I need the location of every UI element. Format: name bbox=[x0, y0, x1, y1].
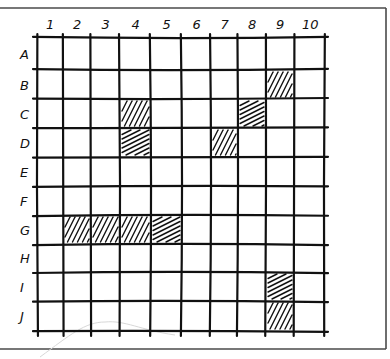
column-label: 6 bbox=[193, 17, 201, 32]
row-label: E bbox=[20, 165, 29, 180]
column-labels: 12345678910 bbox=[46, 17, 319, 32]
grid-row-line bbox=[33, 331, 328, 332]
hatched-cell-J9 bbox=[268, 303, 292, 329]
grid-column-line bbox=[119, 34, 120, 336]
faint-pencil-arc bbox=[40, 322, 175, 357]
grid-row-line bbox=[33, 301, 328, 302]
grid-row-line bbox=[33, 98, 328, 99]
row-label: J bbox=[17, 309, 24, 324]
hatched-cell-G5 bbox=[153, 217, 180, 242]
column-label: 4 bbox=[132, 17, 140, 32]
hatched-cell-G2 bbox=[65, 217, 89, 242]
grid-row-line bbox=[33, 272, 328, 273]
column-label: 3 bbox=[102, 17, 110, 32]
row-label: D bbox=[20, 136, 30, 151]
row-label: A bbox=[19, 47, 29, 62]
column-label: 10 bbox=[302, 17, 319, 32]
hatched-cell-I9 bbox=[268, 274, 292, 299]
hatched-cell-B9 bbox=[268, 72, 292, 97]
grid-row-line bbox=[33, 186, 328, 187]
grid-column-line bbox=[90, 34, 91, 336]
grid-column-line bbox=[324, 34, 325, 336]
column-label: 5 bbox=[163, 17, 171, 32]
grid-row-line bbox=[33, 244, 328, 245]
row-label: F bbox=[20, 194, 28, 209]
grid-column-line bbox=[294, 34, 295, 336]
battleship-grid-sketch: 12345678910 ABCDEFGHIJ bbox=[0, 0, 390, 359]
hatched-cell-G4 bbox=[122, 217, 149, 242]
grid-row-line bbox=[33, 69, 328, 70]
row-label: C bbox=[20, 107, 30, 122]
grid-row-line bbox=[33, 215, 328, 216]
paper-frame bbox=[0, 8, 386, 349]
grid-column-line bbox=[37, 34, 38, 336]
hatched-cell-D4 bbox=[122, 130, 149, 155]
grid-row-line bbox=[33, 157, 328, 158]
hatched-cell-C8 bbox=[240, 101, 264, 126]
grid-row-line bbox=[33, 127, 328, 128]
row-label: B bbox=[20, 78, 29, 93]
grid-column-line bbox=[63, 34, 64, 336]
grid-row-line bbox=[33, 37, 328, 38]
row-label: G bbox=[20, 223, 30, 238]
shaded-cells bbox=[65, 72, 292, 329]
hatched-cell-G3 bbox=[93, 217, 118, 242]
hatched-cell-C4 bbox=[122, 101, 149, 126]
column-label: 8 bbox=[248, 17, 256, 32]
row-labels: ABCDEFGHIJ bbox=[17, 47, 30, 324]
column-label: 9 bbox=[276, 17, 284, 32]
column-label: 7 bbox=[221, 17, 230, 32]
row-label: I bbox=[20, 280, 24, 295]
row-label: H bbox=[20, 251, 30, 266]
column-label: 1 bbox=[46, 17, 54, 32]
column-label: 2 bbox=[73, 17, 81, 32]
hatched-cell-D7 bbox=[213, 130, 236, 155]
